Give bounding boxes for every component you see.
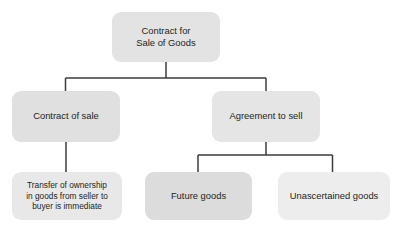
node-contract-for-sale-of-goods[interactable]: Contract for Sale of Goods: [112, 12, 220, 62]
node-agreement-to-sell[interactable]: Agreement to sell: [212, 91, 320, 142]
node-label: Future goods: [165, 190, 232, 202]
diagram-canvas: Contract for Sale of Goods Contract of s…: [0, 0, 394, 231]
node-label: Contract for Sale of Goods: [130, 25, 201, 49]
node-future-goods[interactable]: Future goods: [145, 172, 252, 220]
node-label: Agreement to sell: [224, 110, 309, 122]
node-label: Transfer of ownership in goods from sell…: [20, 180, 114, 212]
node-label: Contract of sale: [27, 110, 105, 122]
node-unascertained-goods[interactable]: Unascertained goods: [278, 172, 390, 220]
node-contract-of-sale[interactable]: Contract of sale: [12, 91, 120, 142]
node-label: Unascertained goods: [284, 190, 385, 202]
node-transfer-of-ownership[interactable]: Transfer of ownership in goods from sell…: [12, 172, 122, 220]
